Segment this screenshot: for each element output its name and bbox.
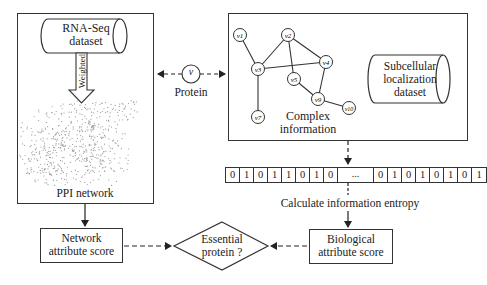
subcellular-label: Subcellular localization dataset	[374, 60, 446, 99]
ppi-network-label: PPI network	[40, 187, 130, 200]
bit-cell: 0	[402, 168, 416, 182]
bit-cell: 1	[416, 168, 430, 182]
bit-cell: 1	[388, 168, 402, 182]
rna-seq-label: RNA-Seq dataset	[48, 22, 124, 48]
network-score-line1: Network	[41, 232, 122, 245]
biological-attribute-score-box: Biological attribute score	[309, 229, 393, 264]
ppi-network-graphic	[19, 100, 137, 186]
bit-cell: 0	[430, 168, 444, 182]
rna-seq-label-line2: dataset	[48, 35, 124, 48]
protein-caption: Protein	[166, 86, 216, 99]
bit-cell: 1	[472, 168, 486, 182]
information-bitstrip: 0 1 0 1 1 0 1 0 ... 0 1 0 1 0 1 0 1	[225, 167, 487, 183]
bit-cell: 0	[296, 168, 310, 182]
bit-cell: 0	[324, 168, 338, 182]
subcellular-label-line3: dataset	[374, 86, 446, 99]
essential-protein-label: Essential protein ?	[182, 233, 262, 259]
graph-node-label: v4	[323, 59, 330, 67]
bit-cell: 0	[374, 168, 388, 182]
bit-cell: 1	[240, 168, 254, 182]
complex-information-label: Complex information	[268, 110, 348, 136]
graph-node-label: v5	[291, 76, 298, 84]
decision-line2: protein ?	[182, 246, 262, 259]
graph-node-label: v7	[255, 114, 262, 122]
weighted-label: Weighted	[77, 49, 87, 93]
subcellular-label-line1: Subcellular	[374, 60, 446, 73]
graph-node-label: v2	[285, 32, 292, 40]
protein-node-label: v	[185, 66, 197, 77]
bit-cell: 1	[282, 168, 296, 182]
graph-node-label: v1	[237, 32, 244, 40]
bit-cell: 0	[226, 168, 240, 182]
complex-label-line2: information	[268, 123, 348, 136]
bit-cell: 0	[458, 168, 472, 182]
network-attribute-score-box: Network attribute score	[40, 228, 123, 263]
bit-cell: 1	[310, 168, 324, 182]
entropy-label: Calculate information entropy	[270, 197, 430, 210]
decision-line1: Essential	[182, 233, 262, 246]
biological-score-line2: attribute score	[310, 246, 392, 259]
bit-cell: 0	[254, 168, 268, 182]
subcellular-label-line2: localization	[374, 73, 446, 86]
graph-node-label: v3	[255, 66, 262, 74]
bit-cell: 1	[444, 168, 458, 182]
graph-node-label: v9	[315, 96, 322, 104]
bit-ellipsis: ...	[338, 168, 374, 182]
bit-cell: 1	[268, 168, 282, 182]
biological-score-line1: Biological	[310, 233, 392, 246]
network-score-line2: attribute score	[41, 245, 122, 258]
biological-score-text: Biological attribute score	[310, 233, 392, 259]
network-score-text: Network attribute score	[41, 232, 122, 258]
